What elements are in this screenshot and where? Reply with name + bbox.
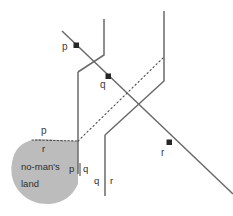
- point-marker-q: [106, 74, 112, 80]
- edge-right-bend: [105, 11, 164, 135]
- label-blob-edge-q: q: [83, 164, 88, 174]
- label-blob-top-p: p: [41, 126, 47, 136]
- voronoi-diagram-figure: p q r p r p q q r no-man's land: [0, 0, 233, 216]
- point-marker-r: [167, 140, 173, 146]
- label-nomans-land-line2: land: [21, 179, 39, 189]
- point-marker-p: [74, 43, 80, 49]
- label-point-p: p: [62, 42, 68, 52]
- label-lower-r: r: [110, 176, 113, 186]
- label-blob-top-r: r: [42, 144, 45, 154]
- label-blob-edge-p: p: [69, 164, 74, 174]
- label-lower-q: q: [94, 176, 99, 186]
- label-point-q: q: [100, 80, 106, 90]
- label-point-r: r: [161, 148, 164, 158]
- label-nomans-land-line1: no-man's: [21, 162, 60, 172]
- edge-dotted-bisector: [78, 57, 164, 141]
- edge-upper-bend: [78, 19, 104, 72]
